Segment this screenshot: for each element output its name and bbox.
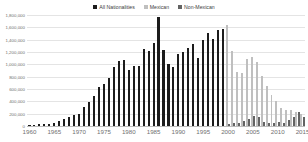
x-axis-tick-label: 2005 — [246, 128, 260, 136]
bar[interactable] — [167, 64, 169, 126]
bar[interactable] — [182, 52, 184, 126]
bar[interactable] — [246, 59, 248, 126]
y-axis-tick-label: 800,000 — [9, 74, 25, 79]
legend-item[interactable]: Non-Mexican — [178, 4, 215, 10]
bar-series-container — [27, 15, 305, 126]
bar[interactable] — [123, 60, 125, 126]
bar[interactable] — [118, 61, 120, 126]
x-axis-labels: 1960196519701975198019851990199520002005… — [27, 128, 305, 140]
bar[interactable] — [153, 43, 155, 126]
y-axis-tick-label: 1,200,000 — [5, 50, 25, 55]
bar[interactable] — [177, 54, 179, 126]
x-axis-tick-label: 2015 — [296, 128, 308, 136]
y-axis-tick-label: 1,400,000 — [5, 37, 25, 42]
legend-label: All Nationalities — [99, 4, 134, 10]
plot-area — [27, 15, 305, 126]
bar[interactable] — [162, 50, 164, 126]
bar[interactable] — [197, 58, 199, 126]
y-axis-tick-label: 200,000 — [9, 111, 25, 116]
bar[interactable] — [148, 51, 150, 126]
x-axis-tick-label: 2010 — [271, 128, 285, 136]
bar[interactable] — [103, 84, 105, 126]
square-marker-icon — [144, 5, 148, 9]
bar[interactable] — [241, 73, 243, 126]
x-axis-tick-label: 1960 — [23, 128, 37, 136]
bar[interactable] — [172, 67, 174, 126]
bar-chart: All NationalitiesMexicanNon-Mexican 0200… — [0, 0, 308, 142]
x-axis-tick-label: 1995 — [196, 128, 210, 136]
bar[interactable] — [108, 78, 110, 126]
bar[interactable] — [68, 117, 70, 126]
bar[interactable] — [303, 117, 305, 126]
bar[interactable] — [231, 51, 233, 126]
bar[interactable] — [192, 44, 194, 126]
bar[interactable] — [202, 40, 204, 126]
bar[interactable] — [83, 107, 85, 126]
bar[interactable] — [63, 119, 65, 126]
legend-label: Mexican — [150, 4, 169, 10]
bar[interactable] — [98, 87, 100, 126]
bar[interactable] — [207, 33, 209, 126]
x-axis-tick-label: 1990 — [172, 128, 186, 136]
bar[interactable] — [133, 66, 135, 126]
bar[interactable] — [236, 72, 238, 126]
bar[interactable] — [93, 96, 95, 126]
y-axis-labels: 0200,000400,000600,000800,0001,000,0001,… — [0, 15, 25, 126]
bar[interactable] — [226, 25, 228, 126]
y-axis-tick-label: 600,000 — [9, 87, 25, 92]
x-axis-tick-label: 1975 — [97, 128, 111, 136]
x-axis-tick-label: 1985 — [147, 128, 161, 136]
bar[interactable] — [222, 29, 224, 126]
bar[interactable] — [143, 49, 145, 126]
square-marker-icon — [93, 5, 97, 9]
bar-group — [300, 15, 305, 126]
y-axis-tick-label: 400,000 — [9, 99, 25, 104]
x-axis-tick-label: 2000 — [221, 128, 235, 136]
bar[interactable] — [271, 95, 273, 126]
bar[interactable] — [261, 76, 263, 126]
bar[interactable] — [88, 102, 90, 126]
y-axis-tick-label: 1,800,000 — [5, 13, 25, 18]
bar[interactable] — [128, 70, 130, 126]
y-axis-tick-label: 1,600,000 — [5, 25, 25, 30]
bar[interactable] — [78, 114, 80, 126]
bar[interactable] — [73, 115, 75, 126]
bar[interactable] — [217, 30, 219, 126]
legend-item[interactable]: All Nationalities — [93, 4, 134, 10]
legend-item[interactable]: Mexican — [144, 4, 169, 10]
bar[interactable] — [157, 17, 159, 126]
chart-legend: All NationalitiesMexicanNon-Mexican — [0, 1, 308, 12]
legend-label: Non-Mexican — [184, 4, 215, 10]
x-axis-line — [27, 126, 305, 127]
x-axis-tick-label: 1980 — [122, 128, 136, 136]
bar[interactable] — [266, 86, 268, 126]
x-axis-tick-label: 1970 — [72, 128, 86, 136]
square-marker-icon — [178, 5, 182, 9]
y-axis-tick-label: 1,000,000 — [5, 62, 25, 67]
bar[interactable] — [212, 39, 214, 126]
bar[interactable] — [187, 48, 189, 126]
bar[interactable] — [138, 66, 140, 126]
x-axis-tick-label: 1965 — [47, 128, 61, 136]
bar[interactable] — [113, 67, 115, 126]
